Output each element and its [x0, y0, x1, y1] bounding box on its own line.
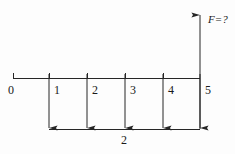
axis-label-0: 0	[8, 84, 14, 96]
axis-label-5: 5	[205, 84, 211, 96]
axis-label-2: 2	[92, 84, 98, 96]
beam-load-diagram: 0 1 2 3 4 5 F=? 2	[0, 0, 235, 154]
diagram-canvas	[0, 0, 235, 154]
axis-label-4: 4	[168, 84, 174, 96]
reaction-force-label: F=?	[208, 14, 228, 25]
dimension-label: 2	[121, 134, 127, 146]
axis-label-3: 3	[130, 84, 136, 96]
axis-label-1: 1	[54, 84, 60, 96]
